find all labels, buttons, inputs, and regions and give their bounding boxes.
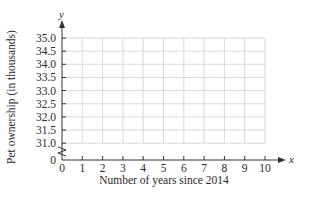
x-tick-label: 4 xyxy=(140,162,146,174)
grid-lines xyxy=(62,38,265,160)
x-tick-label: 6 xyxy=(181,162,187,174)
y-tick-labels: 031.031.532.032.533.033.534.034.535.0 xyxy=(36,32,56,166)
x-tick-labels: 012345678910 xyxy=(59,162,271,174)
y-tick-label: 32.0 xyxy=(36,111,56,123)
y-tick-label: 31.5 xyxy=(36,124,56,136)
y-tick-label: 32.5 xyxy=(36,98,56,110)
x-tick-label: 8 xyxy=(222,162,228,174)
y-tick-label: 0 xyxy=(50,154,56,166)
y-tick-label: 34.0 xyxy=(36,58,56,70)
axis-break-icon xyxy=(58,147,66,156)
chart-canvas: 031.031.532.032.533.033.534.034.535.0 01… xyxy=(0,0,310,198)
y-axis-arrow-icon xyxy=(59,20,65,28)
axes xyxy=(58,20,286,163)
x-tick-label: 1 xyxy=(79,162,85,174)
x-tick-label: 10 xyxy=(259,162,271,174)
x-axis-arrow-icon xyxy=(278,157,286,163)
y-tick-label: 35.0 xyxy=(36,32,56,44)
x-tick-label: 0 xyxy=(59,162,65,174)
y-tick-label: 34.5 xyxy=(36,45,56,57)
x-tick-label: 3 xyxy=(120,162,126,174)
x-axis-variable: x xyxy=(288,153,294,165)
y-tick-label: 33.5 xyxy=(36,71,56,83)
y-tick-label: 31.0 xyxy=(36,137,56,149)
x-tick-label: 7 xyxy=(201,162,207,174)
x-tick-label: 5 xyxy=(161,162,167,174)
x-tick-label: 9 xyxy=(242,162,248,174)
y-tick-label: 33.0 xyxy=(36,85,56,97)
x-axis-title: Number of years since 2014 xyxy=(99,174,229,187)
x-tick-label: 2 xyxy=(100,162,106,174)
y-axis-title: Pet ownership (in thousands) xyxy=(5,30,18,164)
y-axis-variable: y xyxy=(58,8,64,20)
